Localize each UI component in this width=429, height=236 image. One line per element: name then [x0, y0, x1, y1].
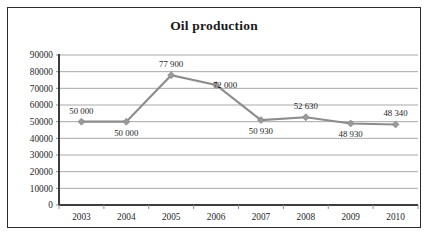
y-tick-label: 70000	[30, 84, 54, 94]
data-point-markers	[78, 72, 399, 128]
data-point-label: 77 900	[159, 59, 184, 69]
data-point-marker	[347, 120, 354, 127]
data-point-label: 72 000	[213, 80, 238, 90]
data-point-label: 52 630	[294, 101, 319, 111]
x-tick-label: 2004	[117, 212, 136, 222]
x-axis	[59, 205, 418, 209]
y-tick-label: 50000	[30, 117, 54, 127]
data-point-label: 50 000	[69, 106, 94, 116]
chart-figure: Oil production 0100002000030000400005000…	[7, 7, 421, 228]
y-tick-label: 80000	[30, 67, 54, 77]
y-tick-label: 10000	[30, 184, 54, 194]
series-line-oil-production	[81, 75, 395, 124]
y-tick-label: 60000	[30, 100, 54, 110]
x-tick-label: 2007	[252, 212, 271, 222]
y-tick-label: 40000	[30, 134, 54, 144]
data-point-label: 50 000	[114, 128, 139, 138]
y-tick-label: 30000	[30, 150, 54, 160]
data-point-label: 50 930	[249, 126, 274, 136]
data-series-oil-production	[81, 75, 395, 124]
y-tick-label: 90000	[30, 50, 54, 60]
data-point-label: 48 930	[339, 129, 364, 139]
x-tick-label: 2003	[72, 212, 91, 222]
y-tick-label: 20000	[30, 167, 54, 177]
y-tick-label: 0	[48, 200, 53, 210]
data-point-marker	[78, 118, 85, 125]
data-point-label: 48 340	[383, 108, 408, 118]
data-point-marker	[302, 114, 309, 121]
line-chart-plot: 0100002000030000400005000060000700008000…	[8, 8, 422, 229]
x-tick-label: 2008	[297, 212, 316, 222]
x-tick-label: 2010	[386, 212, 405, 222]
x-axis-tick-labels: 20032004200520062007200820092010	[72, 212, 405, 222]
x-tick-label: 2009	[341, 212, 360, 222]
x-tick-label: 2006	[207, 212, 226, 222]
y-axis-tick-labels: 0100002000030000400005000060000700008000…	[30, 50, 59, 210]
x-tick-label: 2005	[162, 212, 181, 222]
